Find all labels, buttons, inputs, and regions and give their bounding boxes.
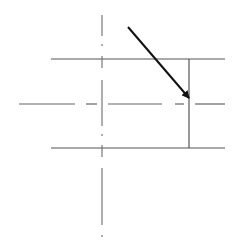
- diagram-canvas: [0, 0, 239, 249]
- technical-drawing: [0, 0, 239, 249]
- arrow-shaft: [128, 27, 189, 98]
- pointer-arrow: [128, 27, 189, 98]
